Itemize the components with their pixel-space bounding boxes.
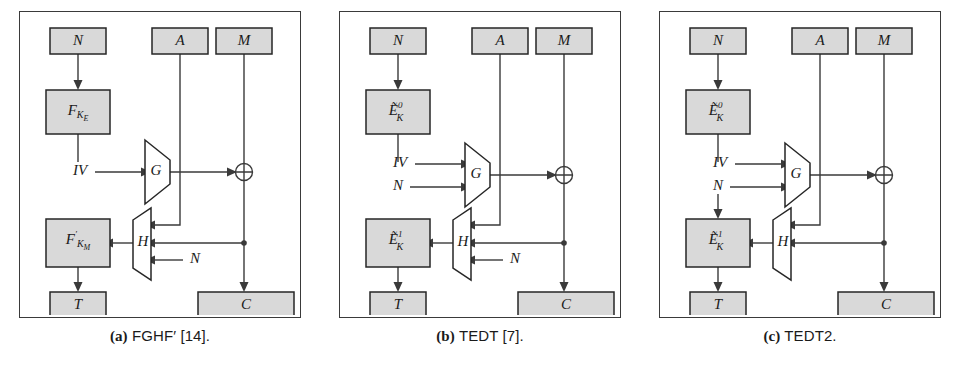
junction-dot-ciphertext bbox=[881, 240, 887, 246]
function-g-label: G bbox=[471, 165, 482, 181]
arrowhead-message-c bbox=[560, 282, 569, 292]
node-assoc-data-label: A bbox=[814, 32, 825, 48]
label-h-nonce-input: N bbox=[189, 250, 201, 266]
node-ciphertext-label: C bbox=[881, 296, 892, 312]
arrowhead-nonce-upper bbox=[74, 80, 83, 90]
node-nonce-top-label: N bbox=[712, 32, 724, 48]
function-h-label: H bbox=[777, 233, 790, 249]
panel-frame-b: N A M Ẽ0K Ẽ1K T C G H IV N N bbox=[339, 11, 621, 318]
function-h-label: H bbox=[457, 233, 470, 249]
panel-frame-a: N A M FKE F′KM T C G H IV bbox=[19, 11, 301, 318]
panel-caption-b: (b) TEDT [7]. bbox=[436, 327, 523, 345]
function-g-label: G bbox=[151, 162, 162, 178]
arrowhead-nonce-upper bbox=[714, 80, 723, 90]
label-iv: IV bbox=[392, 154, 409, 170]
caption-tag-c: (c) bbox=[763, 328, 780, 344]
label-h-nonce-input: N bbox=[509, 250, 521, 266]
caption-tag-b: (b) bbox=[436, 328, 455, 344]
panel-frame-c: N A M Ẽ0K Ẽ1K T C G H IV N bbox=[659, 11, 941, 318]
figure-row: N A M FKE F′KM T C G H IV bbox=[0, 0, 960, 345]
figure-panel-fghf-prime: N A M FKE F′KM T C G H IV bbox=[0, 0, 320, 345]
node-ciphertext-label: C bbox=[561, 296, 572, 312]
label-iv: IV bbox=[72, 162, 89, 178]
node-message-label: M bbox=[877, 32, 892, 48]
junction-dot-ciphertext bbox=[241, 240, 247, 246]
node-assoc-data-label: A bbox=[494, 32, 505, 48]
diagram-fghf-prime: N A M FKE F′KM T C G H IV bbox=[20, 12, 298, 315]
caption-text-b: TEDT [7]. bbox=[459, 327, 524, 344]
diagram-tedt: N A M Ẽ0K Ẽ1K T C G H IV N N bbox=[340, 12, 618, 315]
panel-caption-c: (c) TEDT2. bbox=[763, 327, 836, 345]
label-g-nonce-input: N bbox=[712, 177, 724, 193]
arrowhead-message-c bbox=[240, 282, 249, 292]
diagram-tedt2: N A M Ẽ0K Ẽ1K T C G H IV N bbox=[660, 12, 938, 315]
label-g-nonce-input: N bbox=[392, 177, 404, 193]
junction-dot-ciphertext bbox=[561, 240, 567, 246]
figure-panel-tedt: N A M Ẽ0K Ẽ1K T C G H IV N N bbox=[320, 0, 640, 345]
arrowhead-nonce-lower bbox=[714, 209, 723, 219]
figure-panel-tedt2: N A M Ẽ0K Ẽ1K T C G H IV N bbox=[640, 0, 960, 345]
function-h-label: H bbox=[137, 233, 150, 249]
arrowhead-lower-tag bbox=[714, 282, 723, 292]
node-assoc-data-label: A bbox=[174, 32, 185, 48]
caption-text-c: TEDT2. bbox=[784, 327, 836, 344]
node-ciphertext-label: C bbox=[241, 296, 252, 312]
arrowhead-lower-tag bbox=[394, 282, 403, 292]
caption-text-a: FGHF′ [14]. bbox=[132, 327, 210, 344]
node-message-label: M bbox=[557, 32, 572, 48]
node-nonce-top-label: N bbox=[392, 32, 404, 48]
arrowhead-message-c bbox=[880, 282, 889, 292]
label-iv: IV bbox=[712, 154, 729, 170]
caption-tag-a: (a) bbox=[110, 328, 128, 344]
panel-caption-a: (a) FGHF′ [14]. bbox=[110, 327, 210, 345]
arrowhead-lower-tag bbox=[74, 282, 83, 292]
arrowhead-nonce-upper bbox=[394, 80, 403, 90]
node-nonce-top-label: N bbox=[72, 32, 84, 48]
function-g-label: G bbox=[791, 165, 802, 181]
wire-assoc-to-h bbox=[151, 54, 180, 225]
node-message-label: M bbox=[237, 32, 252, 48]
